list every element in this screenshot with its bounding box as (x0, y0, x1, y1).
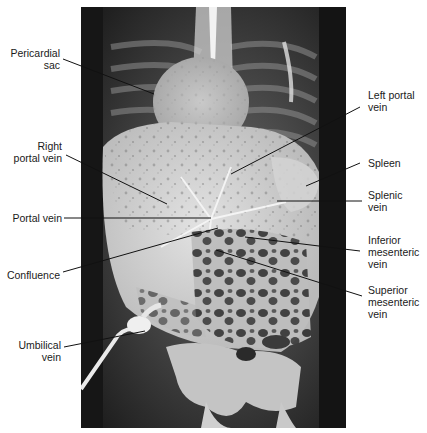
label-confluence: Confluence (2, 269, 60, 281)
label-splenic-vein: Splenic vein (368, 189, 427, 213)
label-umbilical-vein: Umbilical vein (4, 339, 61, 363)
label-left-portal-vein: Left portal vein (368, 89, 427, 113)
label-portal-vein: Portal vein (4, 212, 62, 224)
label-spleen: Spleen (368, 157, 427, 169)
annotated-radiograph-figure: Pericardial sac Right portal vein Portal… (0, 0, 427, 433)
label-superior-mesenteric-vein: Superior mesenteric vein (368, 284, 427, 320)
label-pericardial-sac: Pericardial sac (4, 47, 60, 71)
label-inferior-mesenteric-vein: Inferior mesenteric vein (368, 234, 427, 270)
label-right-portal-vein: Right portal vein (4, 140, 62, 164)
radiograph-image (81, 7, 346, 428)
